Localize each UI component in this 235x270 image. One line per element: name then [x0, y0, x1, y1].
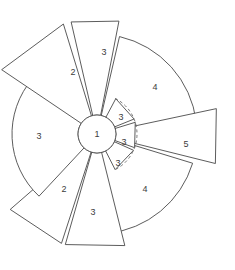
sector-inner-middle-3-label: 3 [121, 137, 126, 147]
radial-sector-diagram: 34543232333 1 [0, 0, 235, 270]
sector-inner-upper-3-label: 3 [118, 112, 123, 122]
sector-left-3-label: 3 [36, 131, 41, 141]
radial-diagram-container: 34543232333 1 [0, 0, 235, 270]
sector-lower-right-4-label: 4 [142, 184, 147, 194]
sector-bottom-3-label: 3 [90, 207, 95, 217]
sector-right-5-label: 5 [183, 139, 188, 149]
sector-inner-lower-3-label: 3 [115, 158, 120, 168]
sector-upper-left-2-label: 2 [70, 67, 75, 77]
sector-upper-right-4-label: 4 [152, 82, 157, 92]
sector-top-3-label: 3 [101, 47, 106, 57]
center-hub-label: 1 [94, 129, 99, 139]
sector-lower-left-2-label: 2 [61, 184, 66, 194]
